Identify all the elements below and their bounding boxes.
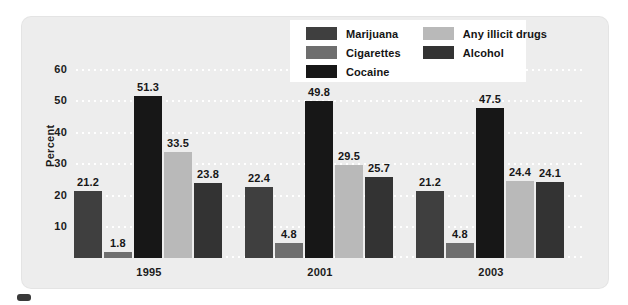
bar[interactable] xyxy=(446,243,474,258)
bar-slot: 24.1 xyxy=(536,53,564,258)
bar-slot: 29.5 xyxy=(335,53,363,258)
chart-legend: MarijuanaCigarettesCocaine Any illicit d… xyxy=(290,20,526,82)
bar-value-label: 29.5 xyxy=(338,150,360,162)
legend-item-label: Alcohol xyxy=(463,47,504,59)
legend-item[interactable]: Marijuana xyxy=(306,26,401,41)
bar[interactable] xyxy=(134,96,162,258)
bar[interactable] xyxy=(104,252,132,258)
bar-value-label: 25.7 xyxy=(368,162,390,174)
bar-slot: 47.5 xyxy=(476,53,504,258)
bar-slot: 23.8 xyxy=(194,53,222,258)
bar-group: 22.44.849.829.525.72001 xyxy=(245,53,395,258)
legend-column-left: MarijuanaCigarettesCocaine xyxy=(306,26,401,82)
x-axis-tick-label: 2001 xyxy=(307,266,332,278)
bar[interactable] xyxy=(275,243,303,258)
bar[interactable] xyxy=(335,165,363,258)
page-corner-mark xyxy=(17,294,31,301)
bar-value-label: 47.5 xyxy=(479,93,501,105)
bar-value-label: 4.8 xyxy=(281,228,297,240)
bar-value-label: 51.3 xyxy=(137,81,159,93)
bar-slot: 24.4 xyxy=(506,53,534,258)
bar-slot: 4.8 xyxy=(275,53,303,258)
bar-value-label: 4.8 xyxy=(452,228,468,240)
bar[interactable] xyxy=(74,191,102,258)
bar-slot: 21.2 xyxy=(416,53,444,258)
x-axis-tick-label: 1995 xyxy=(136,266,161,278)
plot-area: 102030405060 21.21.851.333.523.8199522.4… xyxy=(74,53,586,258)
y-axis-tick-label: 40 xyxy=(54,126,67,138)
bar[interactable] xyxy=(194,183,222,258)
bar-value-label: 23.8 xyxy=(197,168,219,180)
y-axis-tick-label: 20 xyxy=(54,189,67,201)
bar[interactable] xyxy=(506,181,534,258)
legend-item-label: Marijuana xyxy=(346,28,398,40)
x-axis-tick-label: 2003 xyxy=(478,266,503,278)
legend-item-label: Cocaine xyxy=(346,66,390,78)
bar-group-bars: 21.24.847.524.424.1 xyxy=(416,53,566,258)
bar[interactable] xyxy=(305,101,333,258)
chart-panel: Percent 102030405060 21.21.851.333.523.8… xyxy=(22,17,608,288)
bar-slot: 49.8 xyxy=(305,53,333,258)
bar-slot: 21.2 xyxy=(74,53,102,258)
bar[interactable] xyxy=(245,187,273,258)
bar-group-bars: 22.44.849.829.525.7 xyxy=(245,53,395,258)
bar[interactable] xyxy=(416,191,444,258)
legend-item[interactable]: Any illicit drugs xyxy=(423,26,547,41)
legend-swatch-icon xyxy=(423,27,454,40)
bar-slot: 1.8 xyxy=(104,53,132,258)
bar-value-label: 1.8 xyxy=(110,237,126,249)
bar-slot: 25.7 xyxy=(365,53,393,258)
bar-value-label: 21.2 xyxy=(419,176,441,188)
bar-slot: 33.5 xyxy=(164,53,192,258)
legend-swatch-icon xyxy=(306,46,337,59)
bar-slot: 4.8 xyxy=(446,53,474,258)
bar-value-label: 49.8 xyxy=(308,86,330,98)
bar-group: 21.24.847.524.424.12003 xyxy=(416,53,566,258)
bar-slot: 51.3 xyxy=(134,53,162,258)
bar-group-bars: 21.21.851.333.523.8 xyxy=(74,53,224,258)
y-axis-tick-label: 50 xyxy=(54,94,67,106)
bar-value-label: 24.4 xyxy=(509,166,531,178)
bar[interactable] xyxy=(365,177,393,258)
legend-swatch-icon xyxy=(423,46,454,59)
legend-swatch-icon xyxy=(306,27,337,40)
y-axis-tick-label: 60 xyxy=(54,63,67,75)
bar-value-label: 33.5 xyxy=(167,137,189,149)
bar-group: 21.21.851.333.523.81995 xyxy=(74,53,224,258)
legend-column-right: Any illicit drugsAlcohol xyxy=(423,26,547,82)
legend-item-label: Any illicit drugs xyxy=(463,28,547,40)
legend-item[interactable]: Cocaine xyxy=(306,64,401,79)
y-axis-tick-label: 10 xyxy=(54,220,67,232)
bar[interactable] xyxy=(536,182,564,258)
bar[interactable] xyxy=(164,152,192,258)
y-axis-tick-label: 30 xyxy=(54,157,67,169)
bar-value-label: 21.2 xyxy=(77,176,99,188)
bar-value-label: 24.1 xyxy=(539,167,561,179)
bar[interactable] xyxy=(476,108,504,258)
bar-value-label: 22.4 xyxy=(248,172,270,184)
bar-slot: 22.4 xyxy=(245,53,273,258)
legend-item-label: Cigarettes xyxy=(346,47,401,59)
legend-item[interactable]: Cigarettes xyxy=(306,45,401,60)
legend-swatch-icon xyxy=(306,65,337,78)
legend-item[interactable]: Alcohol xyxy=(423,45,547,60)
